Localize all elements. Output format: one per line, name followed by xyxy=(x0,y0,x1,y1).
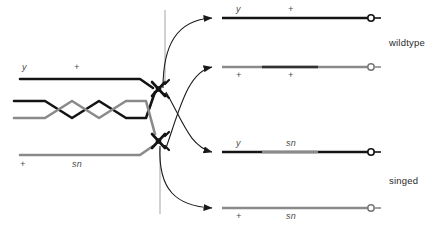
product-chromatid-1 xyxy=(222,15,381,21)
product-1-allele-2: + xyxy=(288,4,293,14)
left-chromatid-1 xyxy=(20,79,153,88)
figure-canvas: y + + sn y + + + y sn + sn wildtype sing… xyxy=(0,0,443,236)
left-allele-plus-bottom: + xyxy=(20,159,25,169)
product-4-allele-2: sn xyxy=(286,211,296,221)
left-allele-y: y xyxy=(22,62,27,72)
arrow-icon-1 xyxy=(163,18,212,88)
phenotype-label-wildtype: wildtype xyxy=(389,37,425,48)
product-4-allele-1: + xyxy=(236,211,241,221)
left-allele-sn: sn xyxy=(72,159,82,169)
left-allele-plus-top: + xyxy=(74,62,79,72)
product-2-allele-2: + xyxy=(288,70,293,80)
product-1-allele-1: y xyxy=(236,4,241,14)
telomere-circle-icon xyxy=(368,15,374,21)
product-3-allele-2: sn xyxy=(286,138,296,148)
arrow-icon-3 xyxy=(166,92,212,152)
arrow-icon-2 xyxy=(166,67,212,148)
left-chromatid-2 xyxy=(14,92,155,118)
product-3-allele-1: y xyxy=(236,138,241,148)
product-chromatid-3 xyxy=(222,149,381,155)
crossover-diagram-svg xyxy=(0,0,443,236)
telomere-circle-icon xyxy=(368,205,374,211)
telomere-circle-icon xyxy=(368,149,374,155)
phenotype-label-singed: singed xyxy=(389,175,418,186)
telomere-circle-icon xyxy=(368,64,374,70)
left-chromatid-4 xyxy=(20,146,153,155)
arrow-icon-4 xyxy=(160,146,212,208)
product-2-allele-1: + xyxy=(236,70,241,80)
product-chromatid-2 xyxy=(222,64,381,70)
product-chromatid-4 xyxy=(222,205,381,211)
